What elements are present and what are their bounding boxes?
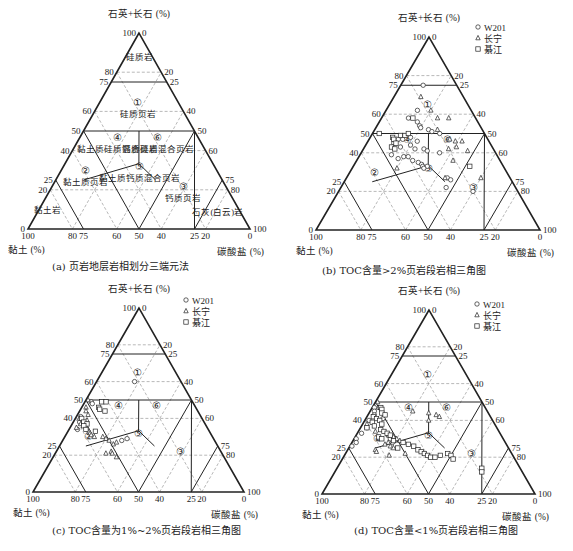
legend-label: 綦江 — [484, 44, 502, 55]
right-tick-label: 0 — [432, 305, 437, 315]
left-tick-label: 60 — [83, 106, 93, 116]
triangle-marker-icon — [427, 418, 431, 422]
region-number-label: ① — [423, 369, 432, 380]
circle-marker-icon — [415, 108, 419, 112]
square-marker-icon — [438, 453, 442, 457]
square-marker-icon — [406, 442, 410, 446]
legend-label: 长宁 — [483, 310, 501, 321]
triangle-marker-icon — [419, 94, 423, 98]
region-number-label: ③ — [176, 446, 185, 457]
right-tick-label: 40 — [476, 109, 486, 119]
region-name-label: 黏土岩 — [34, 205, 61, 215]
axis-title-left: 黏土 (%) — [13, 507, 50, 519]
square-marker-icon — [372, 424, 376, 428]
left-tick-label: 100 — [123, 303, 137, 313]
region-number-label: ① — [133, 367, 142, 378]
right-tick-label: 50 — [198, 126, 208, 136]
bottom-tick-label: 60 — [401, 232, 411, 242]
triangle-marker-icon — [475, 312, 479, 316]
circle-marker-icon — [413, 147, 417, 151]
grid-line — [407, 384, 471, 494]
left-tick-label: 80 — [105, 67, 115, 77]
grid-line — [95, 111, 162, 229]
bottom-tick-label: 80 — [360, 496, 370, 506]
circle-marker-icon — [415, 139, 419, 143]
bottom-tick-label: 40 — [157, 231, 167, 241]
bottom-tick-label: 20 — [491, 232, 501, 242]
bottom-tick-label: 0 — [248, 231, 253, 241]
circle-marker-icon — [475, 302, 479, 306]
circle-marker-icon — [350, 444, 354, 448]
square-marker-icon — [380, 422, 384, 426]
bottom-tick-label: 60 — [403, 496, 413, 506]
caption-c: (c) TOC含量为1%~2%页岩段岩相三角图 — [52, 522, 241, 537]
axis-title-top: 石英+长石 (%) — [108, 8, 170, 20]
region-number-label: ⑥ — [152, 400, 161, 411]
triangle-marker-icon — [465, 148, 469, 152]
grid-line — [343, 457, 364, 494]
left-tick-label: 60 — [372, 109, 382, 119]
ternary-panel-b: 1008075605040252000202540506075801001008… — [296, 12, 557, 259]
circle-marker-icon — [471, 189, 475, 193]
bottom-tick-label: 80 — [68, 231, 78, 241]
left-tick-label: 20 — [42, 450, 52, 460]
square-marker-icon — [451, 457, 455, 461]
ternary-panel-a: 1008075605040252000202540506075801001008… — [8, 8, 267, 258]
left-tick-label: 40 — [353, 415, 363, 425]
triangle-marker-icon — [435, 127, 439, 131]
region-number-label: ④ — [114, 400, 123, 411]
region-number-label: ② — [81, 165, 90, 176]
bottom-tick-label: 25 — [477, 496, 487, 506]
square-marker-icon — [398, 133, 402, 137]
right-tick-label: 60 — [205, 413, 215, 423]
bottom-tick-label: 75 — [79, 231, 89, 241]
region-number-label: ⑥ — [153, 132, 162, 143]
circle-marker-icon — [132, 379, 136, 383]
region-number-label: ① — [133, 97, 142, 108]
triangle-marker-icon — [101, 434, 105, 438]
region-number-label: ⑤ — [135, 161, 144, 172]
right-tick-label: 0 — [142, 303, 147, 313]
right-tick-label: 40 — [474, 379, 484, 389]
bottom-tick-label: 50 — [424, 496, 434, 506]
right-tick-label: 60 — [496, 415, 506, 425]
circle-marker-icon — [354, 440, 358, 444]
left-tick-label: 25 — [44, 175, 54, 185]
circle-marker-icon — [406, 116, 410, 120]
square-marker-icon — [104, 400, 108, 404]
bottom-tick-label: 80 — [71, 494, 81, 504]
left-tick-label: 75 — [101, 349, 111, 359]
left-tick-label: 60 — [85, 377, 95, 387]
boundary-carb75 — [482, 448, 509, 494]
right-tick-label: 100 — [253, 224, 267, 234]
square-marker-icon — [411, 116, 415, 120]
circle-marker-icon — [410, 158, 414, 162]
right-tick-label: 80 — [226, 450, 236, 460]
right-tick-label: 50 — [488, 129, 498, 139]
right-tick-label: 100 — [247, 487, 261, 497]
left-tick-label: 75 — [390, 351, 400, 361]
right-tick-label: 0 — [432, 32, 437, 42]
square-marker-icon — [406, 131, 410, 135]
grid-line — [492, 457, 513, 494]
circle-marker-icon — [398, 145, 402, 149]
square-marker-icon — [476, 47, 480, 51]
circle-marker-icon — [396, 156, 400, 160]
square-marker-icon — [97, 407, 101, 411]
boundary-clay75 — [60, 446, 86, 492]
square-marker-icon — [100, 400, 104, 404]
bottom-tick-label: 20 — [201, 231, 211, 241]
right-tick-label: 40 — [184, 377, 194, 387]
right-tick-label: 100 — [538, 489, 552, 499]
region-number-label: ⑤ — [424, 430, 433, 441]
ternary-panel-c: 1008075605040252000202540506075801001008… — [13, 283, 261, 521]
legend-label: W201 — [484, 23, 506, 33]
left-tick-label: 100 — [413, 32, 427, 42]
square-marker-icon — [480, 470, 484, 474]
caption-d: (d) TOC含量<1%页岩段岩相三角图 — [354, 522, 518, 537]
square-marker-icon — [383, 413, 387, 417]
ternary-panel-d: 1008075605040252000202540506075801001008… — [302, 285, 552, 523]
triangle-marker-icon — [434, 412, 438, 416]
right-tick-label: 25 — [459, 351, 469, 361]
caption-a: (a) 页岩地层岩相划分三端元法 — [52, 258, 189, 273]
